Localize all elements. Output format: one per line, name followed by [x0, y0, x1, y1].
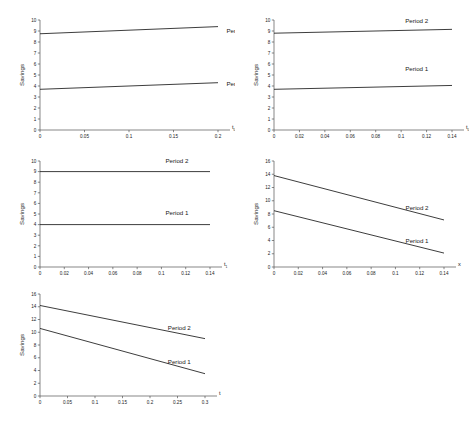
x-tick-label: 0.1	[158, 271, 165, 276]
series-line-1	[40, 328, 205, 373]
series-label-1: Period 1	[405, 65, 429, 72]
y-tick-label: 8	[34, 180, 37, 185]
x-tick-label: 0.1	[392, 271, 399, 276]
series-label-2: Period 2	[165, 157, 189, 164]
y-tick-label: 16	[265, 159, 271, 164]
x-tick-label: 0.08	[367, 271, 376, 276]
series-label-2: Period 2	[405, 17, 429, 24]
y-tick-label: 7	[34, 51, 37, 56]
y-tick-label: 0	[34, 265, 37, 270]
y-tick-label: 2	[34, 381, 37, 386]
series-line-1	[274, 85, 452, 89]
y-tick-label: 10	[31, 18, 37, 23]
y-tick-label: 0	[34, 394, 37, 399]
x-tick-label: 0.2	[215, 134, 222, 139]
x-axis-title: t	[219, 390, 221, 396]
x-tick-label: 0.1	[92, 400, 99, 405]
panel-2-chart: 01234567891000.020.040.060.080.10.120.14…	[234, 0, 469, 150]
y-tick-label: 5	[34, 73, 37, 78]
y-tick-label: 5	[34, 212, 37, 217]
x-tick-label: 0.04	[84, 271, 93, 276]
panel-3-container: 01234567891000.020.040.060.080.10.120.14…	[0, 147, 235, 289]
x-tick-label: 0.25	[173, 400, 182, 405]
x-tick-label: 0.06	[108, 271, 117, 276]
y-tick-label: 6	[34, 62, 37, 67]
x-tick-label: 0.06	[346, 134, 355, 139]
y-tick-label: 4	[34, 84, 37, 89]
x-tick-label: 0.14	[206, 271, 215, 276]
y-axis-title: Savings	[18, 64, 25, 86]
x-tick-label: 0.1	[126, 134, 133, 139]
x-axis-title: t1	[224, 261, 228, 269]
x-tick-label: 0	[39, 134, 42, 139]
y-tick-label: 6	[34, 355, 37, 360]
x-tick-label: 0.08	[133, 271, 142, 276]
x-tick-label: 0.2	[147, 400, 154, 405]
y-tick-label: 4	[34, 368, 37, 373]
panel-1-chart: 01234567891000.050.10.150.2Savingst0Peri…	[0, 0, 235, 150]
y-axis-title: Savings	[252, 203, 259, 225]
y-tick-label: 4	[268, 238, 271, 243]
y-tick-label: 1	[34, 117, 37, 122]
series-line-1	[274, 211, 444, 253]
x-tick-label: 0.3	[202, 400, 209, 405]
series-line-2	[274, 29, 452, 33]
y-tick-label: 4	[34, 222, 37, 227]
panel-5-chart: 024681012141600.050.10.150.20.250.3Savin…	[0, 284, 235, 422]
y-tick-label: 7	[268, 51, 271, 56]
x-tick-label: 0.12	[422, 134, 431, 139]
y-tick-label: 2	[34, 106, 37, 111]
y-tick-label: 14	[31, 304, 37, 309]
series-label-1: Period 1	[168, 358, 192, 365]
x-tick-label: 0.12	[181, 271, 190, 276]
panel-5-container: 024681012141600.050.10.150.20.250.3Savin…	[0, 284, 235, 422]
y-tick-label: 5	[268, 73, 271, 78]
series-label-2: Period 2	[406, 204, 430, 211]
series-label-1: Period 1	[406, 237, 430, 244]
series-label-2: Period 2	[168, 324, 192, 331]
panel-2-container: 01234567891000.020.040.060.080.10.120.14…	[234, 0, 469, 150]
y-axis-title: Savings	[18, 203, 25, 225]
series-label-1: Period 1	[165, 209, 189, 216]
y-tick-label: 8	[268, 212, 271, 217]
series-line-1	[40, 83, 218, 90]
x-tick-label: 0.08	[371, 134, 380, 139]
x-tick-label: 0	[273, 134, 276, 139]
y-tick-label: 6	[34, 201, 37, 206]
x-tick-label: 0	[39, 400, 42, 405]
y-tick-label: 9	[34, 29, 37, 34]
y-tick-label: 2	[34, 244, 37, 249]
panel-1-container: 01234567891000.050.10.150.2Savingst0Peri…	[0, 0, 235, 150]
x-tick-label: 0.02	[295, 134, 304, 139]
y-tick-label: 2	[268, 251, 271, 256]
y-tick-label: 8	[268, 40, 271, 45]
y-tick-label: 12	[31, 317, 37, 322]
x-tick-label: 0.06	[342, 271, 351, 276]
x-tick-label: 0.15	[118, 400, 127, 405]
y-tick-label: 7	[34, 191, 37, 196]
series-line-2	[40, 27, 218, 34]
y-tick-label: 4	[268, 84, 271, 89]
panel-4-container: 024681012141600.020.040.060.080.10.120.1…	[234, 147, 469, 289]
y-tick-label: 10	[31, 159, 37, 164]
x-tick-label: 0	[39, 271, 42, 276]
x-axis-title: x	[458, 261, 461, 267]
y-tick-label: 16	[31, 292, 37, 297]
y-axis-title: Savings	[252, 64, 259, 86]
y-tick-label: 9	[268, 29, 271, 34]
x-tick-label: 0.05	[80, 134, 89, 139]
y-tick-label: 8	[34, 343, 37, 348]
y-tick-label: 14	[265, 172, 271, 177]
x-tick-label: 0	[273, 271, 276, 276]
y-tick-label: 10	[31, 330, 37, 335]
y-tick-label: 8	[34, 40, 37, 45]
x-tick-label: 0.15	[169, 134, 178, 139]
x-tick-label: 0.12	[415, 271, 424, 276]
panel-4-chart: 024681012141600.020.040.060.080.10.120.1…	[234, 147, 469, 289]
x-tick-label: 0.04	[320, 134, 329, 139]
y-tick-label: 1	[34, 254, 37, 259]
x-tick-label: 0.14	[440, 271, 449, 276]
y-tick-label: 1	[268, 117, 271, 122]
y-tick-label: 2	[268, 106, 271, 111]
y-tick-label: 3	[268, 95, 271, 100]
